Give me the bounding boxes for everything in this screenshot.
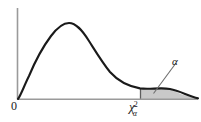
chi-subscript-alpha: α bbox=[133, 109, 137, 118]
critical-value-label: χ2α bbox=[129, 100, 143, 117]
alpha-area-label: α bbox=[172, 56, 178, 67]
origin-label: 0 bbox=[11, 100, 17, 112]
chi-exponent: 2 bbox=[134, 100, 138, 109]
chi-square-distribution-figure: 0 χ2α α bbox=[0, 0, 201, 122]
density-curve bbox=[18, 23, 198, 99]
chi-square-plot bbox=[0, 0, 201, 122]
